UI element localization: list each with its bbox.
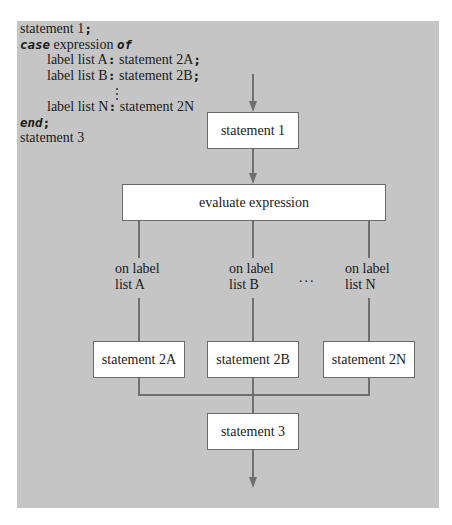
arrow-down-icon [249, 173, 257, 184]
statement-1-box: statement 1 [207, 112, 299, 149]
code-line-2: case expression of [20, 37, 201, 53]
statement-2a-box: statement 2A [93, 341, 185, 378]
connector-line [252, 149, 254, 174]
box-label: statement 1 [221, 123, 285, 139]
connector-line [368, 298, 370, 341]
branch-label-a: on labellist A [115, 261, 160, 293]
code-text: statement 2A [116, 52, 194, 67]
horizontal-ellipsis: ... [299, 270, 316, 286]
code-line-3: label list A: statement 2A; [20, 52, 201, 68]
branch-label-line: on label [345, 261, 390, 277]
code-line-1: statement 1; [20, 21, 201, 37]
semicolon: ; [84, 21, 92, 36]
statement-2b-box: statement 2B [207, 341, 299, 378]
box-label: evaluate expression [199, 195, 309, 211]
code-text: label list A [47, 52, 108, 67]
code-text: label list B [47, 68, 108, 83]
code-line-spacer [20, 83, 201, 99]
semicolon: ; [43, 115, 51, 130]
connector-line [368, 221, 370, 258]
code-text: statement 2N [116, 99, 194, 114]
branch-label-line: list A [115, 277, 160, 293]
code-line-4: label list B: statement 2B; [20, 68, 201, 84]
branch-label-line: on label [229, 261, 274, 277]
statement-3-box: statement 3 [207, 413, 299, 450]
code-line-5: label list N: statement 2N [20, 99, 201, 115]
box-label: statement 2B [216, 352, 290, 368]
colon: : [108, 52, 116, 67]
box-label: statement 2A [102, 352, 176, 368]
code-text: expression [50, 37, 117, 52]
semicolon: ; [193, 68, 201, 83]
code-text: statement 2B [116, 68, 193, 83]
box-label: statement 2N [332, 352, 406, 368]
connector-line [252, 298, 254, 341]
keyword-end: end [20, 115, 43, 130]
semicolon: ; [193, 52, 201, 67]
arrow-down-icon [249, 101, 257, 112]
statement-2n-box: statement 2N [323, 341, 415, 378]
code-line-7: statement 3 [20, 130, 201, 146]
code-text: label list N [47, 99, 108, 114]
code-line-6: end; [20, 115, 201, 131]
evaluate-expression-box: evaluate expression [122, 184, 386, 221]
vertical-ellipsis [116, 88, 119, 103]
branch-label-line: list B [229, 277, 274, 293]
code-listing: statement 1; case expression of label li… [20, 21, 201, 146]
merge-line [138, 394, 370, 396]
branch-label-b: on labellist B [229, 261, 274, 293]
branch-label-line: on label [115, 261, 160, 277]
connector-line [138, 221, 140, 258]
connector-line [138, 298, 140, 341]
keyword-of: of [117, 37, 132, 52]
branch-label-line: list N [345, 277, 390, 293]
arrow-down-icon [249, 477, 257, 488]
code-text: statement 3 [20, 130, 84, 145]
connector-line [252, 74, 254, 102]
branch-label-n: on labellist N [345, 261, 390, 293]
connector-line [252, 450, 254, 478]
keyword-case: case [20, 37, 50, 52]
colon: : [108, 68, 116, 83]
code-text: statement 1 [20, 21, 84, 36]
connector-line [252, 221, 254, 258]
box-label: statement 3 [221, 424, 285, 440]
